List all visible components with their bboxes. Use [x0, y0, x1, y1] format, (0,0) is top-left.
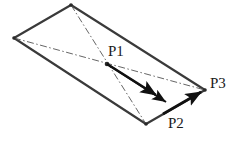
vertex-dot-left	[12, 36, 16, 40]
figure-canvas	[0, 0, 235, 141]
vertex-dot-top	[69, 3, 73, 7]
vector-p1-to-p2	[107, 64, 166, 102]
edge-left-top	[14, 5, 71, 38]
vertex-dot-bottom	[144, 122, 148, 126]
vector-p2-to-p3	[163, 92, 201, 114]
vertex-dot-right	[203, 88, 207, 92]
label-p2: P2	[168, 116, 184, 131]
geometry-figure: P1 P2 P3	[0, 0, 235, 141]
edge-top-right	[71, 5, 205, 90]
label-p3: P3	[210, 76, 226, 91]
vector-arrows	[107, 64, 201, 114]
label-p1: P1	[108, 44, 124, 59]
edge-bottom-left	[14, 38, 146, 124]
